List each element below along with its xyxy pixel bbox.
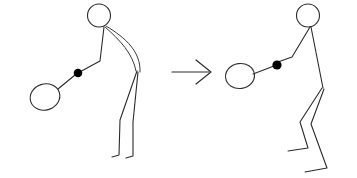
left-racket-handle [58, 75, 75, 89]
left-arm [76, 27, 104, 74]
left-ball-marker [74, 69, 83, 78]
right-racket-handle [253, 66, 274, 74]
right-leg-back [305, 89, 327, 172]
right-pose-group [224, 4, 327, 172]
right-head-icon [297, 4, 320, 27]
right-torso [311, 27, 323, 88]
right-racket-oval [224, 62, 256, 91]
right-ball-marker [272, 60, 281, 69]
left-pose-group [27, 4, 140, 158]
left-racket-oval [27, 80, 64, 114]
right-arm [275, 27, 310, 63]
stick-figure-scene [0, 0, 357, 178]
illustration-canvas [0, 0, 357, 178]
left-head-icon [88, 4, 111, 27]
left-back-curve-inner [105, 27, 136, 71]
transition-arrow [172, 60, 211, 84]
